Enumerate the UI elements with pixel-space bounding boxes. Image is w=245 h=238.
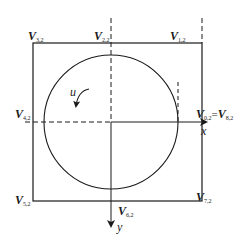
label-v22: V2,2 [94, 29, 110, 43]
diagram-canvas: u V3,2 V2,2 V1,2 V4,2 V0,2=V8,2 V5,2 V6,… [0, 0, 245, 238]
label-v32: V3,2 [28, 29, 44, 43]
label-v52: V5,2 [15, 193, 31, 207]
rotation-arrow-icon [76, 89, 89, 106]
label-v62: V6,2 [118, 204, 134, 218]
label-v02-v82: V0,2=V8,2 [196, 107, 233, 121]
rotation-label: u [70, 85, 76, 99]
label-v42: V4,2 [15, 107, 31, 121]
x-axis-label: x [200, 124, 207, 138]
label-v12: V1,2 [170, 29, 186, 43]
y-axis-label: y [116, 220, 123, 234]
label-v72: V7,2 [196, 190, 212, 204]
